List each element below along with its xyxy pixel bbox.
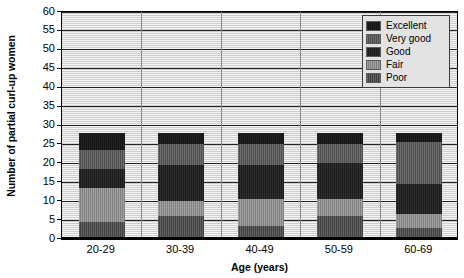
bar-segment-60-69-very-good — [396, 142, 442, 184]
y-tick-label-15: 15 — [25, 176, 55, 187]
legend-item-fair: Fair — [366, 58, 446, 71]
bar-40-49 — [238, 11, 284, 237]
legend-swatch-very-good — [366, 34, 381, 44]
bar-segment-40-49-excellent — [238, 133, 284, 144]
legend-label-poor: Poor — [386, 73, 407, 83]
y-tick-label-40: 40 — [25, 81, 55, 92]
x-tick-label-60-69: 60-69 — [378, 243, 458, 255]
y-tick-label-20: 20 — [25, 157, 55, 168]
bar-segment-60-69-poor — [396, 228, 442, 237]
bar-30-39 — [158, 11, 204, 237]
y-tick-label-55: 55 — [25, 24, 55, 35]
bar-segment-40-49-poor — [238, 226, 284, 237]
bar-segment-30-39-excellent — [158, 133, 204, 144]
legend-swatch-excellent — [366, 21, 381, 31]
legend-swatch-poor — [366, 73, 381, 83]
y-tick-label-25: 25 — [25, 138, 55, 149]
x-tick-label-20-29: 20-29 — [61, 243, 141, 255]
bar-segment-60-69-excellent — [396, 133, 442, 142]
category-separator-2 — [221, 12, 222, 237]
legend: ExcellentVery goodGoodFairPoor — [362, 15, 450, 88]
bar-segment-20-29-poor — [79, 222, 125, 237]
y-tick-label-45: 45 — [25, 62, 55, 73]
legend-label-excellent: Excellent — [386, 21, 427, 31]
legend-swatch-fair — [366, 60, 381, 70]
x-tick-label-30-39: 30-39 — [140, 243, 220, 255]
bar-20-29 — [79, 11, 125, 237]
bar-segment-50-59-fair — [317, 199, 363, 216]
legend-item-very-good: Very good — [366, 32, 446, 45]
bar-segment-50-59-excellent — [317, 133, 363, 144]
x-axis-line — [61, 238, 458, 240]
bar-segment-20-29-excellent — [79, 133, 125, 150]
y-tick-label-35: 35 — [25, 100, 55, 111]
bar-segment-60-69-good — [396, 184, 442, 214]
bar-segment-20-29-fair — [79, 188, 125, 222]
legend-label-good: Good — [386, 47, 410, 57]
legend-swatch-good — [366, 47, 381, 57]
bar-segment-20-29-good — [79, 169, 125, 188]
legend-item-good: Good — [366, 45, 446, 58]
x-tick-label-50-59: 50-59 — [299, 243, 379, 255]
bar-segment-20-29-very-good — [79, 150, 125, 169]
bar-segment-40-49-very-good — [238, 144, 284, 165]
category-separator-1 — [141, 12, 142, 237]
y-tick-label-60: 60 — [25, 6, 55, 17]
legend-label-very-good: Very good — [386, 34, 431, 44]
stacked-bar-chart: Number of partial curl-up women 05101520… — [0, 0, 464, 278]
legend-label-fair: Fair — [386, 60, 403, 70]
bar-segment-30-39-very-good — [158, 144, 204, 165]
bar-segment-50-59-good — [317, 163, 363, 199]
category-separator-3 — [300, 12, 301, 237]
bar-segment-40-49-good — [238, 165, 284, 199]
bar-50-59 — [317, 11, 363, 237]
bar-segment-30-39-fair — [158, 201, 204, 216]
y-tick-label-10: 10 — [25, 195, 55, 206]
bar-segment-50-59-poor — [317, 216, 363, 237]
y-tick-label-5: 5 — [25, 214, 55, 225]
x-axis-title: Age (years) — [61, 261, 458, 273]
y-tick-label-50: 50 — [25, 43, 55, 54]
x-tick-label-40-49: 40-49 — [220, 243, 300, 255]
bar-segment-30-39-poor — [158, 216, 204, 237]
bar-segment-40-49-fair — [238, 199, 284, 225]
bar-segment-50-59-very-good — [317, 144, 363, 163]
legend-item-poor: Poor — [366, 71, 446, 84]
bar-segment-30-39-good — [158, 165, 204, 201]
y-tick-label-30: 30 — [25, 119, 55, 130]
bar-segment-60-69-fair — [396, 214, 442, 227]
legend-item-excellent: Excellent — [366, 19, 446, 32]
y-tick-label-0: 0 — [25, 233, 55, 244]
